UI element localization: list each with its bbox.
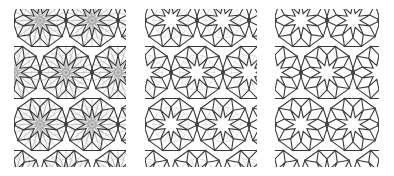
layer-star-pattern [145, 9, 257, 167]
pattern-with-underlay [145, 9, 257, 167]
pattern-final [275, 9, 379, 167]
construction-full [14, 9, 126, 167]
pattern-figure [0, 0, 394, 176]
layer-star-pattern [275, 9, 379, 167]
